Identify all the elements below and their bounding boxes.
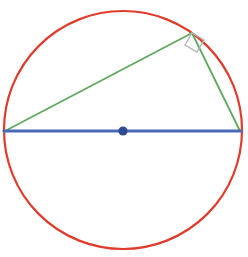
geometry-diagram <box>0 0 248 257</box>
triangle-leg-hypotenuse-left <box>5 33 192 131</box>
diagram-svg <box>0 0 248 257</box>
center-point-dot <box>118 126 127 135</box>
